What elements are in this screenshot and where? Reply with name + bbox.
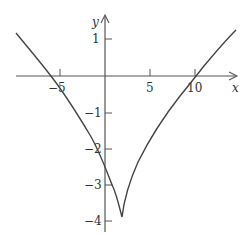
y-tick-label: 1 [92,32,100,46]
y-tick-label: −4 [84,214,102,228]
x-axis-label: x [232,81,239,95]
y-tick-label: −3 [84,178,102,192]
chart: −5 5 10 x 1 −1 −2 −3 −4 y [0,0,243,235]
y-axis-label: y [91,15,99,29]
y-tick-label: −1 [84,106,102,120]
x-tick-label: 10 [187,81,202,95]
function-curve [16,30,236,217]
x-tick-label: 5 [146,81,154,95]
